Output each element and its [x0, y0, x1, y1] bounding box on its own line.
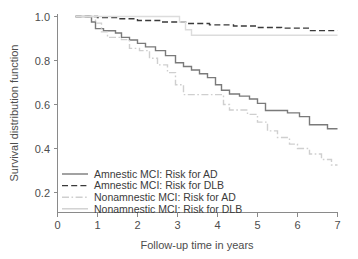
x-tick-label-3: 3: [174, 219, 180, 231]
x-tick-label-0: 0: [54, 219, 60, 231]
curve-series-2: [76, 17, 338, 166]
x-tick-label-1: 1: [94, 219, 100, 231]
x-tick-label-6: 6: [294, 219, 300, 231]
y-tick-label-1.0: 1.0: [35, 11, 50, 23]
y-axis-tick-labels: 1.0 0.8 0.6 0.4 0.2: [35, 11, 50, 199]
y-tick-label-0.2: 0.2: [35, 187, 50, 199]
legend-label-3: Nonamnestic MCI: Risk for DLB: [94, 203, 242, 215]
legend-label-1: Amnestic MCI: Risk for DLB: [94, 179, 224, 191]
survival-chart-svg: 1.0 0.8 0.6 0.4 0.2 0 1 2 3 4 5 6 7: [0, 0, 358, 259]
x-tick-label-2: 2: [134, 219, 140, 231]
x-tick-label-4: 4: [214, 219, 220, 231]
legend-item-2[interactable]: Nonamnestic MCI: Risk for AD: [62, 191, 236, 203]
curves-group: [76, 17, 338, 166]
y-tick-label-0.6: 0.6: [35, 99, 50, 111]
curve-series-1: [76, 17, 338, 31]
y-axis-ticks: [54, 17, 58, 193]
y-axis-title: Survival distribution function: [8, 45, 20, 182]
y-tick-label-0.8: 0.8: [35, 55, 50, 67]
x-axis-tick-labels: 0 1 2 3 4 5 6 7: [54, 219, 340, 231]
chart-legend: Amnestic MCI: Risk for ADAmnestic MCI: R…: [62, 168, 242, 215]
legend-label-0: Amnestic MCI: Risk for AD: [94, 168, 218, 180]
x-axis-title: Follow-up time in years: [140, 239, 254, 251]
legend-item-1[interactable]: Amnestic MCI: Risk for DLB: [62, 179, 224, 191]
x-tick-label-5: 5: [254, 219, 260, 231]
legend-item-0[interactable]: Amnestic MCI: Risk for AD: [62, 168, 218, 180]
y-tick-label-0.4: 0.4: [35, 143, 50, 155]
survival-chart-figure: 1.0 0.8 0.6 0.4 0.2 0 1 2 3 4 5 6 7: [0, 0, 358, 259]
x-tick-label-7: 7: [334, 219, 340, 231]
curve-series-0: [76, 17, 338, 129]
legend-label-2: Nonamnestic MCI: Risk for AD: [94, 191, 236, 203]
